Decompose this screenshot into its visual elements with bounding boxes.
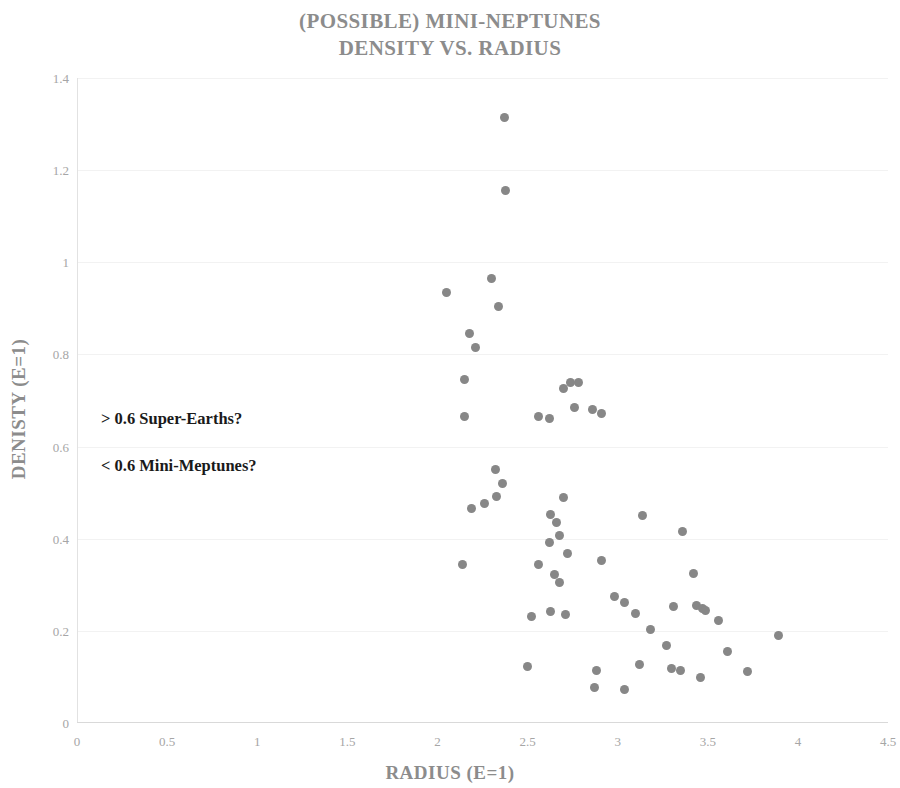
data-point xyxy=(620,685,629,694)
data-point xyxy=(620,598,629,607)
data-point xyxy=(723,647,732,656)
x-axis-line xyxy=(77,722,888,723)
data-point xyxy=(555,531,564,540)
y-axis-line xyxy=(77,78,78,723)
x-tick-label: 2.5 xyxy=(498,735,558,748)
data-point xyxy=(480,499,489,508)
data-point xyxy=(597,409,606,418)
y-axis-title: DENISTY (E=1) xyxy=(8,289,30,529)
data-point xyxy=(491,465,500,474)
data-point xyxy=(467,504,476,513)
data-point xyxy=(545,538,554,547)
data-point xyxy=(696,673,705,682)
x-axis-title: RADIUS (E=1) xyxy=(0,762,900,784)
gridline xyxy=(77,631,888,632)
data-point xyxy=(638,511,647,520)
y-tick-label: 0.4 xyxy=(5,533,69,546)
data-point xyxy=(559,493,568,502)
data-point xyxy=(667,664,676,673)
chart-title: (POSSIBLE) MINI-NEPTUNES DENSITY VS. RAD… xyxy=(0,8,900,62)
x-tick-label: 1 xyxy=(227,735,287,748)
data-point xyxy=(523,662,532,671)
data-point xyxy=(534,412,543,421)
data-point xyxy=(552,518,561,527)
data-point xyxy=(774,631,783,640)
data-point xyxy=(534,560,543,569)
data-point xyxy=(498,479,507,488)
y-tick-label: 0 xyxy=(5,717,69,730)
annotation-mini-neptunes: < 0.6 Mini-Meptunes? xyxy=(101,456,257,476)
y-tick-label: 0.2 xyxy=(5,625,69,638)
data-point xyxy=(610,592,619,601)
x-tick-label: 3 xyxy=(588,735,648,748)
gridline xyxy=(77,262,888,263)
data-point xyxy=(662,641,671,650)
gridline xyxy=(77,539,888,540)
scatter-chart: (POSSIBLE) MINI-NEPTUNES DENSITY VS. RAD… xyxy=(0,0,900,788)
x-tick-label: 1.5 xyxy=(317,735,377,748)
data-point xyxy=(487,274,496,283)
data-point xyxy=(669,602,678,611)
data-point xyxy=(635,660,644,669)
data-point xyxy=(545,414,554,423)
plot-area xyxy=(77,78,888,723)
data-point xyxy=(527,612,536,621)
data-point xyxy=(631,609,640,618)
x-tick-label: 3.5 xyxy=(678,735,738,748)
data-point xyxy=(546,607,555,616)
data-point xyxy=(555,578,564,587)
data-point xyxy=(494,302,503,311)
gridline xyxy=(77,78,888,79)
x-tick-label: 4 xyxy=(768,735,828,748)
annotation-super-earths: > 0.6 Super-Earths? xyxy=(101,409,242,429)
data-point xyxy=(588,405,597,414)
data-point xyxy=(500,113,509,122)
y-tick-label: 1.2 xyxy=(5,164,69,177)
y-tick-label: 0.6 xyxy=(5,441,69,454)
data-point xyxy=(559,384,568,393)
data-point xyxy=(574,378,583,387)
data-point xyxy=(592,666,601,675)
data-point xyxy=(460,375,469,384)
data-point xyxy=(458,560,467,569)
data-point xyxy=(492,492,501,501)
data-point xyxy=(561,610,570,619)
gridline xyxy=(77,447,888,448)
y-tick-label: 1.4 xyxy=(5,72,69,85)
data-point xyxy=(597,556,606,565)
data-point xyxy=(442,288,451,297)
data-point xyxy=(590,683,599,692)
data-point xyxy=(563,549,572,558)
y-tick-label: 0.8 xyxy=(5,348,69,361)
x-tick-label: 4.5 xyxy=(858,735,900,748)
data-point xyxy=(471,343,480,352)
y-tick-label: 1 xyxy=(5,256,69,269)
data-point xyxy=(678,527,687,536)
data-point xyxy=(676,666,685,675)
data-point xyxy=(743,667,752,676)
data-point xyxy=(460,412,469,421)
x-tick-label: 2 xyxy=(407,735,467,748)
chart-title-line-2: DENSITY VS. RADIUS xyxy=(0,35,900,62)
data-point xyxy=(465,329,474,338)
gridline xyxy=(77,354,888,355)
gridline xyxy=(77,170,888,171)
data-point xyxy=(501,186,510,195)
chart-title-line-1: (POSSIBLE) MINI-NEPTUNES xyxy=(0,8,900,35)
data-point xyxy=(689,569,698,578)
data-point xyxy=(701,606,710,615)
data-point xyxy=(714,616,723,625)
data-point xyxy=(646,625,655,634)
x-tick-label: 0.5 xyxy=(137,735,197,748)
x-tick-label: 0 xyxy=(47,735,107,748)
data-point xyxy=(570,403,579,412)
